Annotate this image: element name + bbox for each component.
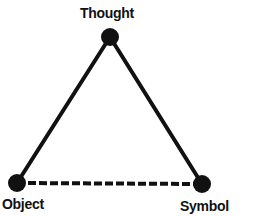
semiotic-triangle-diagram [0, 0, 260, 216]
node-label-symbol: Symbol [180, 198, 229, 214]
node-object [8, 174, 26, 192]
edge-thought-symbol [110, 37, 202, 184]
node-thought [101, 28, 119, 46]
edge-thought-object [17, 37, 110, 183]
edge-object-symbol-dashed [17, 183, 202, 184]
node-label-object: Object [2, 196, 44, 212]
node-symbol [193, 175, 211, 193]
node-label-thought: Thought [80, 5, 134, 21]
